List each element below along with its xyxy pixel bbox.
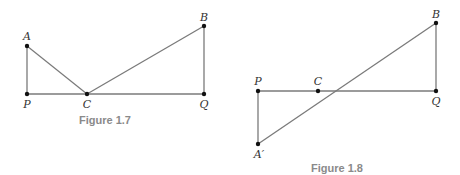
figure-1-7: A B P C Q Figure 1.7 (22, 11, 208, 126)
point-a (25, 44, 29, 48)
point-q (202, 92, 206, 96)
point-b (434, 21, 438, 25)
point-a-prime (256, 142, 260, 146)
figure-caption: Figure 1.7 (79, 114, 131, 126)
label-c: C (83, 98, 92, 111)
point-p (256, 89, 260, 93)
point-p (25, 92, 29, 96)
label-c: C (314, 75, 323, 88)
label-a: A (22, 30, 31, 43)
figure-1-8: P C Q B A′ Figure 1.8 (253, 8, 441, 174)
point-c (85, 92, 89, 96)
point-c (316, 89, 320, 93)
segment-ac (27, 46, 87, 94)
figure-caption: Figure 1.8 (311, 162, 363, 174)
label-q: Q (431, 95, 440, 108)
segment-cb (87, 26, 204, 94)
label-q: Q (199, 98, 208, 111)
label-p: P (22, 98, 31, 111)
label-a-prime: A′ (253, 148, 265, 161)
diagram-canvas: A B P C Q Figure 1.7 P C Q B A′ Figure 1… (0, 0, 460, 175)
label-p: P (253, 75, 262, 88)
point-q (434, 89, 438, 93)
label-b: B (199, 11, 208, 24)
segment-a-prime-b (258, 23, 436, 144)
point-b (202, 24, 206, 28)
label-b: B (431, 8, 440, 21)
